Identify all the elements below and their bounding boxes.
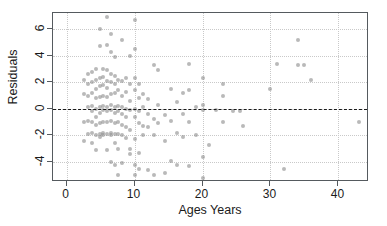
- y-axis-tick-label: 4: [33, 48, 47, 62]
- data-point: [181, 112, 185, 116]
- data-point: [94, 115, 98, 119]
- data-point: [169, 87, 173, 91]
- data-point: [105, 43, 109, 47]
- data-point: [94, 87, 98, 91]
- y-axis-tick: [47, 161, 52, 162]
- data-point: [113, 55, 117, 59]
- data-point: [137, 151, 141, 155]
- data-point: [128, 152, 132, 156]
- data-point: [133, 76, 137, 80]
- data-point: [296, 38, 300, 42]
- data-point: [238, 109, 242, 113]
- data-point: [137, 82, 141, 86]
- data-point: [137, 109, 141, 113]
- data-point: [124, 115, 128, 119]
- data-point: [207, 143, 211, 147]
- data-point: [94, 67, 98, 71]
- data-point: [113, 141, 117, 145]
- data-point: [169, 159, 173, 163]
- data-point: [156, 103, 160, 107]
- data-point: [101, 75, 105, 79]
- y-axis-tick: [47, 108, 52, 109]
- data-point: [156, 68, 160, 72]
- data-point: [302, 63, 306, 67]
- gridline-vertical: [67, 13, 68, 180]
- data-point: [137, 96, 141, 100]
- x-axis-tick: [202, 181, 203, 186]
- y-axis-tick: [47, 134, 52, 135]
- data-point: [124, 90, 128, 94]
- y-axis-tick: [47, 55, 52, 56]
- data-point: [94, 148, 98, 152]
- data-point: [175, 163, 179, 167]
- data-point: [105, 148, 109, 152]
- data-point: [133, 115, 137, 119]
- data-point: [141, 92, 145, 96]
- y-axis-tick-label: 2: [33, 74, 47, 88]
- data-point: [175, 100, 179, 104]
- data-point: [133, 47, 137, 51]
- data-point: [146, 168, 150, 172]
- data-point: [137, 121, 141, 125]
- data-point: [221, 120, 225, 124]
- data-point: [141, 124, 145, 128]
- data-point: [296, 63, 300, 67]
- x-axis-tick: [134, 181, 135, 186]
- data-point: [163, 139, 167, 143]
- x-axis-tick-label: 20: [195, 187, 208, 201]
- data-point: [156, 121, 160, 125]
- data-point: [105, 86, 109, 90]
- data-point: [133, 137, 137, 141]
- zero-residual-line: [53, 109, 367, 110]
- data-point: [181, 135, 185, 139]
- data-point: [275, 62, 279, 66]
- data-point: [109, 32, 113, 36]
- data-point: [187, 164, 191, 168]
- x-axis-tick-label: 10: [127, 187, 140, 201]
- x-axis-tick: [337, 181, 338, 186]
- data-point: [109, 50, 113, 54]
- data-point: [163, 113, 167, 117]
- data-point: [120, 38, 124, 42]
- gridline-vertical: [338, 13, 339, 180]
- data-point: [268, 87, 272, 91]
- data-point: [309, 78, 313, 82]
- y-axis-tick-label: 6: [33, 21, 47, 35]
- data-point: [146, 97, 150, 101]
- data-point: [357, 120, 361, 124]
- data-point: [116, 88, 120, 92]
- scatter-plot-figure: Residuals 0102030406420-2-4 Ages Years: [0, 0, 387, 226]
- data-point: [113, 74, 117, 78]
- data-point: [133, 163, 137, 167]
- y-axis-tick: [47, 81, 52, 82]
- data-point: [152, 117, 156, 121]
- plot-frame: [52, 12, 368, 181]
- data-point: [82, 78, 86, 82]
- data-point: [133, 18, 137, 22]
- gridline-horizontal: [53, 162, 367, 163]
- data-point: [90, 91, 94, 95]
- data-point: [152, 63, 156, 67]
- data-point: [90, 141, 94, 145]
- data-point: [187, 88, 191, 92]
- data-point: [175, 131, 179, 135]
- y-axis-tick-label: 0: [33, 101, 47, 115]
- data-point: [187, 120, 191, 124]
- data-point: [194, 133, 198, 137]
- data-point: [133, 173, 137, 177]
- data-point: [231, 109, 235, 113]
- data-point: [116, 147, 120, 151]
- data-point: [116, 173, 120, 177]
- data-point: [201, 155, 205, 159]
- data-point: [128, 128, 132, 132]
- data-point: [113, 82, 117, 86]
- gridline-horizontal: [53, 56, 367, 57]
- data-point: [181, 91, 185, 95]
- data-point: [128, 99, 132, 103]
- data-point: [152, 133, 156, 137]
- data-point: [98, 27, 102, 31]
- data-point: [221, 94, 225, 98]
- data-point: [124, 76, 128, 80]
- data-point: [120, 161, 124, 165]
- data-point: [82, 139, 86, 143]
